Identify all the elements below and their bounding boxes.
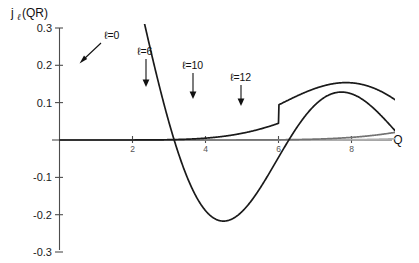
curve-l6 bbox=[60, 83, 396, 140]
y-tick-label--0.2: -0.2 bbox=[33, 209, 52, 221]
annotation-l6: ℓ=6 bbox=[137, 45, 153, 87]
annotation-l10-label: ℓ=10 bbox=[182, 59, 203, 71]
annotation-l12-arrow-head bbox=[238, 99, 245, 107]
x-axis-title: Q bbox=[393, 133, 402, 147]
y-tick-label--0.3: -0.3 bbox=[33, 246, 52, 258]
annotation-l12: ℓ=12 bbox=[230, 71, 251, 106]
y-tick-label-0.3: 0.3 bbox=[37, 22, 52, 34]
y-axis-title-rest: (QR) bbox=[22, 6, 48, 20]
bessel-function-plot: j ℓ (QR) 0.3 0.2 0.1 -0.1 -0.2 -0.3 bbox=[0, 0, 419, 263]
figure-root: j ℓ (QR) 0.3 0.2 0.1 -0.1 -0.2 -0.3 bbox=[0, 0, 419, 263]
y-axis-title: j ℓ (QR) bbox=[10, 6, 48, 22]
y-axis-tick-labels: 0.3 0.2 0.1 -0.1 -0.2 -0.3 bbox=[33, 22, 52, 258]
annotation-l6-arrow-head bbox=[143, 80, 150, 88]
y-tick-label-0.1: 0.1 bbox=[37, 97, 52, 109]
annotation-l0-label: ℓ=0 bbox=[104, 29, 120, 41]
x-tick-label-2: 2 bbox=[130, 144, 135, 154]
annotation-l0: ℓ=0 bbox=[80, 29, 120, 64]
curve-l0 bbox=[135, 0, 395, 221]
y-tick-label--0.1: -0.1 bbox=[33, 171, 52, 183]
annotation-l10: ℓ=10 bbox=[182, 59, 203, 99]
x-tick-label-8: 8 bbox=[349, 144, 354, 154]
annotation-l10-arrow-head bbox=[190, 92, 197, 100]
y-axis-title-subscript: ℓ bbox=[17, 12, 21, 22]
annotation-l6-label: ℓ=6 bbox=[137, 45, 153, 57]
y-tick-label-0.2: 0.2 bbox=[37, 59, 52, 71]
y-axis-title-main: j bbox=[10, 6, 14, 20]
annotation-l12-label: ℓ=12 bbox=[230, 71, 251, 83]
x-axis-tick-labels: 2 4 6 8 bbox=[130, 144, 354, 154]
x-tick-label-4: 4 bbox=[203, 144, 208, 154]
